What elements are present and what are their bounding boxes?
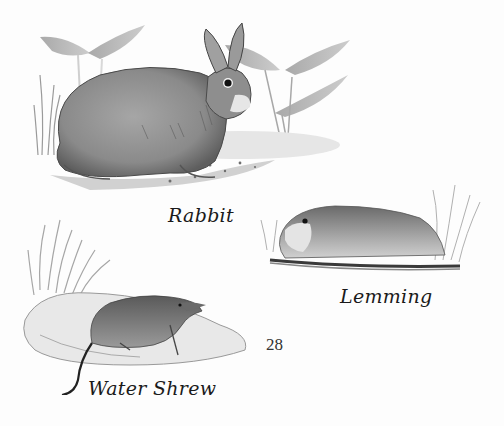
- page-number: 28: [266, 335, 283, 355]
- book-page: Rabbit Lemming: [0, 0, 504, 426]
- lemming-illustration: [255, 180, 500, 280]
- water-shrew-illustration: [20, 215, 250, 395]
- lemming-caption: Lemming: [340, 285, 432, 307]
- water-shrew-caption: Water Shrew: [88, 377, 216, 399]
- rabbit-illustration: [30, 15, 360, 195]
